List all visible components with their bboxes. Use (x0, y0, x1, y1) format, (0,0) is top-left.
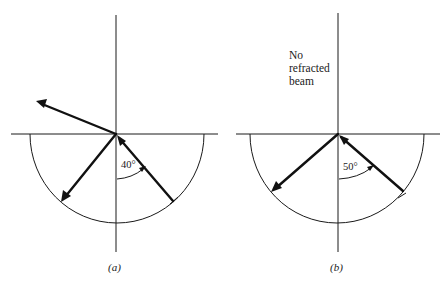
reflected-beam (276, 134, 338, 188)
no-refracted-beam-note-line1: No (289, 49, 303, 61)
semicircle-prism (250, 134, 424, 223)
panel-caption: (b) (330, 261, 343, 274)
no-refracted-beam-note-line2: refracted (289, 62, 330, 74)
refracted-beam (42, 104, 116, 134)
total-internal-reflection-figure: 40° (a) 50° No refracted beam (b) (0, 0, 448, 284)
angle-label: 40° (121, 159, 136, 170)
angle-label: 50° (343, 161, 358, 172)
no-refracted-beam-note-line3: beam (289, 75, 314, 87)
angle-arc (117, 169, 143, 179)
reflected-beam (65, 134, 116, 197)
panel-b: 50° No refracted beam (b) (236, 13, 440, 274)
panel-caption: (a) (108, 261, 121, 274)
panel-a: 40° (a) (11, 15, 218, 274)
